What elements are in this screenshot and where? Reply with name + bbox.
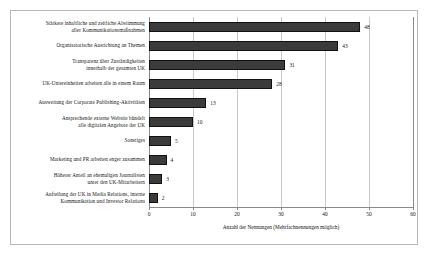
bar-container: 43	[149, 36, 413, 55]
category-label: Transparenz über Zuständigkeiteninnerhal…	[15, 58, 145, 70]
bar-row: Organisatorische Ausrichtung an Themen43	[11, 36, 417, 55]
category-label: Ausweitung der Corporate Publishing-Akti…	[15, 99, 145, 105]
tick-label-0: 0	[148, 211, 151, 217]
bar-row: Transparenz über Zuständigkeiteninnerhal…	[11, 55, 417, 74]
tick-label-40: 40	[322, 211, 327, 217]
bar-row: Sonstiges5	[11, 131, 417, 150]
bar-container: 3	[149, 169, 413, 188]
bar-row: Marketing und PR arbeiten enger zusammen…	[11, 150, 417, 169]
bar-row: UK-Untereinheiten arbeiten alle in einem…	[11, 74, 417, 93]
bar-row: Ausweitung der Corporate Publishing-Akti…	[11, 93, 417, 112]
bar-container: 13	[149, 93, 413, 112]
category-label: Aufteilung der UK in Media Relations, in…	[15, 191, 145, 203]
bar-rows: Stärkere inhaltliche und zeitliche Absti…	[11, 17, 417, 207]
bar[interactable]	[149, 79, 272, 89]
bar[interactable]	[149, 60, 285, 70]
tick-mark-20	[237, 208, 238, 210]
bar-container: 31	[149, 55, 413, 74]
bar-value-label: 4	[171, 157, 174, 163]
category-label: UK-Untereinheiten arbeiten alle in einem…	[15, 80, 145, 86]
category-label: Sonstiges	[15, 137, 145, 143]
tick-mark-0	[149, 208, 150, 210]
bar-container: 4	[149, 150, 413, 169]
bar-value-label: 48	[364, 24, 369, 30]
category-label: Marketing und PR arbeiten enger zusammen	[15, 156, 145, 162]
tick-label-10: 10	[190, 211, 195, 217]
bar-row: Ansprechende externe Website bündeltalle…	[11, 112, 417, 131]
bar[interactable]	[149, 22, 360, 32]
bar-value-label: 2	[162, 195, 165, 201]
category-label: Ansprechende externe Website bündeltalle…	[15, 115, 145, 127]
bar[interactable]	[149, 98, 206, 108]
x-axis-title: Anzahl der Nennungen (Mehrfachnennungen …	[149, 224, 413, 230]
bar-container: 28	[149, 74, 413, 93]
tick-label-30: 30	[278, 211, 283, 217]
tick-label-20: 20	[234, 211, 239, 217]
bar-value-label: 3	[166, 176, 169, 182]
tick-mark-50	[369, 208, 370, 210]
bar-chart-plot: Stärkere inhaltliche und zeitliche Absti…	[11, 11, 417, 244]
bar-value-label: 28	[276, 81, 281, 87]
bar-value-label: 13	[210, 100, 215, 106]
bar-value-label: 10	[197, 119, 202, 125]
bar-row: Aufteilung der UK in Media Relations, in…	[11, 188, 417, 207]
bar[interactable]	[149, 41, 338, 51]
tick-label-60: 60	[410, 211, 415, 217]
bar-value-label: 5	[175, 138, 178, 144]
bar-container: 48	[149, 17, 413, 36]
tick-mark-10	[193, 208, 194, 210]
bar-value-label: 43	[342, 43, 347, 49]
category-label: Höherer Anteil an ehemaligen Journaliste…	[15, 172, 145, 184]
bar-container: 5	[149, 131, 413, 150]
bar[interactable]	[149, 174, 162, 184]
tick-label-50: 50	[366, 211, 371, 217]
tick-mark-30	[281, 208, 282, 210]
tick-mark-60	[413, 208, 414, 210]
bar[interactable]	[149, 193, 158, 203]
bar-row: Höherer Anteil an ehemaligen Journaliste…	[11, 169, 417, 188]
bar[interactable]	[149, 155, 167, 165]
category-label: Stärkere inhaltliche und zeitliche Absti…	[15, 20, 145, 32]
bar[interactable]	[149, 117, 193, 127]
category-label: Organisatorische Ausrichtung an Themen	[15, 42, 145, 48]
bar-value-label: 31	[289, 62, 294, 68]
bar-row: Stärkere inhaltliche und zeitliche Absti…	[11, 17, 417, 36]
x-axis-ticks: 0102030405060	[149, 208, 413, 218]
bar-container: 10	[149, 112, 413, 131]
chart-frame: Stärkere inhaltliche und zeitliche Absti…	[10, 10, 418, 245]
bar-container: 2	[149, 188, 413, 207]
bar[interactable]	[149, 136, 171, 146]
tick-mark-40	[325, 208, 326, 210]
